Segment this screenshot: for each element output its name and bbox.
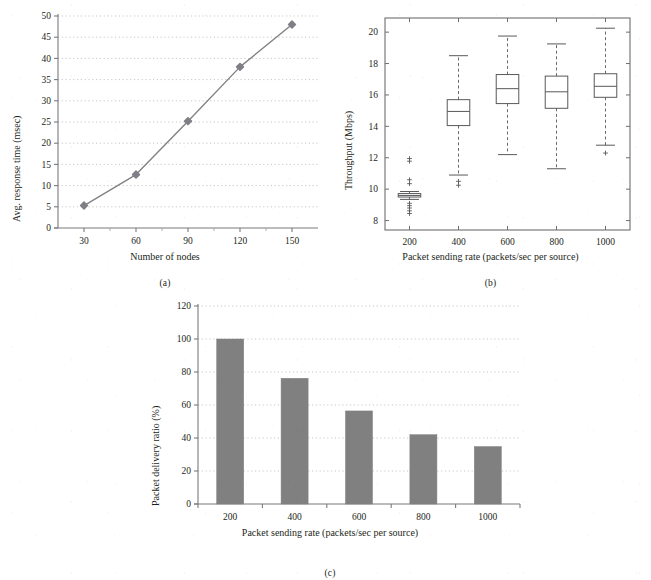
- figure-container: 05101520253035404550306090120150 Number …: [0, 0, 651, 580]
- data-line-a: [84, 24, 292, 205]
- bar-800: [410, 435, 437, 504]
- x-tick-label-b: 800: [549, 237, 564, 247]
- x-tick-label-a: 150: [285, 236, 300, 246]
- outlier-marker: [407, 181, 412, 186]
- y-tick-label-a: 0: [46, 223, 51, 233]
- boxplot-group: [398, 156, 421, 216]
- y-tick-label-c: 80: [182, 367, 192, 377]
- boxplot-group: [545, 44, 568, 169]
- y-tick-label-a: 35: [42, 75, 52, 85]
- caption-a: (a): [0, 278, 330, 288]
- y-tick-label-a: 40: [42, 54, 52, 64]
- subplot-c: 0204060801001202004006008001000 Packet s…: [120, 292, 540, 580]
- x-tick-label-c: 1000: [478, 512, 497, 522]
- x-tick-label-c: 400: [287, 512, 302, 522]
- box-iqr: [447, 100, 470, 126]
- bar-200: [217, 339, 244, 504]
- y-axis-label-b: Throughput (Mbps): [343, 111, 354, 190]
- x-tick-label-c: 200: [223, 512, 238, 522]
- x-tick-label-c: 600: [352, 512, 367, 522]
- y-tick-label-c: 40: [182, 433, 192, 443]
- subplot-a: 05101520253035404550306090120150 Number …: [0, 0, 330, 292]
- y-tick-label-c: 20: [182, 466, 192, 476]
- plot-area-c: 0204060801001202004006008001000: [177, 301, 520, 522]
- boxplot-group: [447, 56, 470, 188]
- y-tick-label-a: 25: [42, 117, 52, 127]
- bar-chart-c: 0204060801001202004006008001000: [120, 292, 540, 544]
- y-tick-label-b: 18: [369, 59, 379, 69]
- y-tick-label-a: 45: [42, 32, 52, 42]
- caption-c: (c): [120, 568, 540, 578]
- x-tick-label-b: 1000: [596, 237, 615, 247]
- x-tick-label-c: 800: [416, 512, 431, 522]
- x-tick-label-b: 400: [451, 237, 466, 247]
- x-axis-label-b: Packet sending rate (packets/sec per sou…: [330, 251, 651, 262]
- x-tick-label-a: 60: [131, 236, 141, 246]
- x-tick-label-a: 90: [183, 236, 193, 246]
- boxplot-chart-b: 81012141618202004006008001000: [330, 0, 651, 268]
- y-tick-label-a: 15: [42, 160, 52, 170]
- outlier-marker: [603, 151, 608, 156]
- plot-area-a: 05101520253035404550306090120150: [42, 11, 319, 246]
- outlier-marker: [456, 183, 461, 188]
- y-tick-label-c: 0: [186, 499, 191, 509]
- y-tick-label-a: 5: [46, 202, 51, 212]
- boxplot-group: [594, 28, 617, 155]
- y-tick-label-a: 50: [42, 11, 52, 21]
- y-tick-label-a: 30: [42, 96, 52, 106]
- y-tick-label-a: 20: [42, 138, 52, 148]
- outlier-marker: [407, 159, 412, 164]
- y-tick-label-c: 60: [182, 400, 192, 410]
- y-axis-label-c: Packet delivery ratio (%): [150, 406, 161, 506]
- bar-1000: [474, 447, 501, 504]
- bar-600: [345, 411, 372, 504]
- plot-area-b: 81012141618202004006008001000: [369, 18, 631, 247]
- x-tick-label-b: 200: [402, 237, 417, 247]
- y-tick-label-b: 14: [369, 122, 379, 132]
- x-tick-label-a: 120: [233, 236, 248, 246]
- y-tick-label-c: 100: [177, 334, 192, 344]
- y-tick-label-b: 16: [369, 90, 379, 100]
- y-axis-label-a: Avg. response time (msec): [11, 116, 22, 222]
- caption-b: (b): [330, 278, 651, 288]
- subplot-b: 81012141618202004006008001000 Packet sen…: [330, 0, 651, 292]
- x-axis-label-c: Packet sending rate (packets/sec per sou…: [120, 527, 540, 538]
- x-tick-label-b: 600: [500, 237, 515, 247]
- y-tick-label-b: 8: [373, 216, 378, 226]
- boxplot-group: [496, 36, 519, 155]
- y-tick-label-c: 120: [177, 301, 192, 311]
- outlier-marker: [407, 211, 412, 216]
- line-chart-a: 05101520253035404550306090120150: [0, 0, 330, 270]
- box-iqr: [594, 74, 617, 98]
- y-tick-label-b: 20: [369, 27, 379, 37]
- x-tick-label-a: 30: [79, 236, 89, 246]
- y-tick-label-b: 10: [369, 184, 379, 194]
- x-axis-label-a: Number of nodes: [0, 251, 330, 262]
- bar-400: [281, 378, 308, 504]
- y-tick-label-a: 10: [42, 181, 52, 191]
- data-point-a: [81, 202, 88, 209]
- y-tick-label-b: 12: [369, 153, 379, 163]
